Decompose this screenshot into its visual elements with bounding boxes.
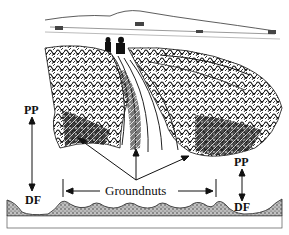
groundnut-field-illustration: PP DF PP DF Groundnuts [0, 0, 289, 235]
groundnuts-label: Groundnuts [102, 184, 169, 197]
pp-label-right: PP [234, 156, 249, 168]
hills [45, 11, 280, 39]
df-label-left: DF [25, 194, 41, 206]
pp-label-left: PP [24, 104, 39, 116]
base-strip [7, 216, 282, 228]
df-label-right: DF [234, 201, 250, 213]
pp-df-arrow-left [29, 117, 35, 191]
pp-df-arrow-right [239, 169, 245, 201]
